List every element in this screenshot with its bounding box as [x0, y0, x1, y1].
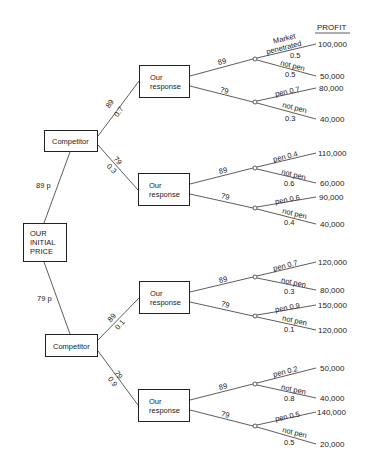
response-node: Our response: [138, 173, 190, 206]
chance-node: [253, 424, 257, 428]
chance-node: [253, 382, 257, 386]
profit-value: 40,000: [320, 115, 344, 124]
profit-value: 150,000: [318, 301, 347, 310]
profit-header: PROFIT: [317, 23, 346, 32]
response-label: Our: [150, 289, 163, 298]
root-branch-price: 79 p: [37, 295, 52, 303]
profit-value: 140,000: [317, 408, 346, 417]
response-label: response: [150, 298, 181, 307]
profit-value: 80,000: [320, 286, 344, 295]
not-pen-prob: 0.5: [284, 439, 294, 447]
response-label: response: [150, 82, 181, 91]
not-pen-prob: 0.3: [284, 288, 294, 296]
response-node: Our response: [139, 281, 190, 314]
response-node: Our response: [138, 389, 190, 422]
not-pen-prob: 0.5: [285, 71, 295, 79]
competitor-node: Competitor: [45, 334, 98, 357]
competitor-node: Competitor: [44, 130, 98, 152]
not-pen-prob: 0.1: [284, 326, 294, 334]
response-label: response: [149, 190, 180, 199]
profit-value: 60,000: [320, 179, 344, 188]
response-label: Our: [150, 73, 163, 82]
not-pen-prob: 0.3: [285, 115, 295, 123]
profit-value: 100,000: [318, 40, 347, 49]
chance-node: [253, 166, 257, 170]
pen-prob: 0.5: [290, 52, 300, 60]
response-label: response: [149, 406, 180, 415]
not-pen-prob: 0.6: [284, 180, 294, 188]
initial-price-node: OUR INITIAL PRICE: [23, 223, 67, 262]
profit-value: 40,000: [320, 220, 344, 229]
response-label: Our: [149, 181, 162, 190]
profit-value: 40,000: [320, 394, 344, 403]
chance-node: [253, 275, 257, 279]
competitor-label: Competitor: [53, 342, 90, 351]
profit-value: 80,000: [319, 84, 343, 93]
root-label-line: OUR: [30, 229, 47, 238]
profit-value: 50,000: [320, 364, 344, 373]
profit-value: 120,000: [318, 258, 347, 267]
response-node: Our response: [139, 65, 190, 98]
root-label-line: PRICE: [30, 247, 53, 256]
profit-value: 20,000: [320, 440, 344, 449]
competitor-label: Competitor: [52, 137, 89, 146]
profit-value: 110,000: [318, 149, 346, 158]
root-branch-price: 89 p: [36, 182, 51, 190]
profit-value: 50,000: [320, 72, 344, 81]
not-pen-prob: 0.4: [284, 219, 294, 227]
root-label-line: INITIAL: [30, 238, 55, 247]
profit-value: 120,000: [318, 326, 347, 335]
profit-value: 90,000: [319, 193, 343, 202]
chance-node: [253, 100, 257, 104]
chance-node: [253, 57, 257, 61]
response-label: Our: [149, 397, 162, 406]
chance-node: [253, 206, 257, 210]
chance-node: [253, 314, 257, 318]
not-pen-prob: 0.8: [284, 395, 294, 403]
